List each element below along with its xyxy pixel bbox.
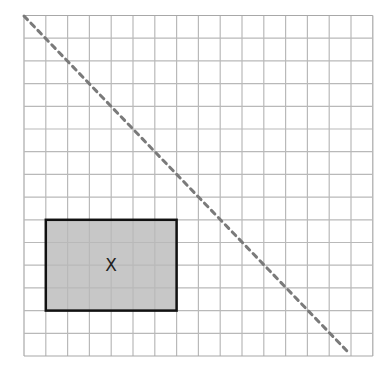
region-label-x: X	[105, 255, 117, 275]
grid-diagram: X	[0, 0, 385, 372]
background	[0, 0, 385, 372]
